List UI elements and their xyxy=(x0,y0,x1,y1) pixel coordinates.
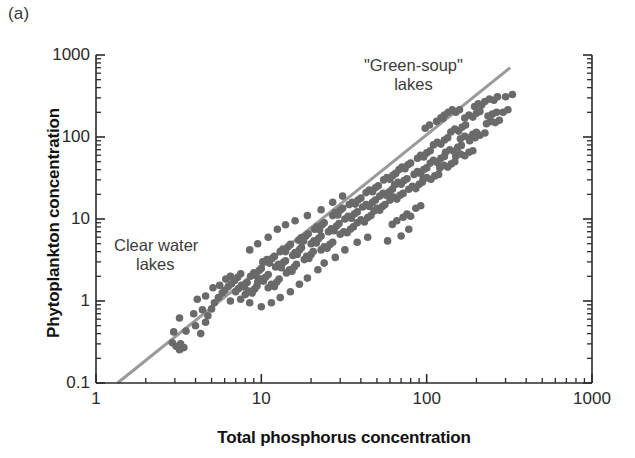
data-point xyxy=(405,225,413,233)
data-point xyxy=(437,114,445,122)
scatter-points xyxy=(169,91,517,354)
data-point xyxy=(469,147,477,155)
y-tick-label: 1 xyxy=(32,291,90,311)
data-point xyxy=(364,233,372,241)
data-point xyxy=(246,299,254,307)
annotation-clear-water-lakes: Clear waterlakes xyxy=(114,236,198,275)
y-tick-label: 1000 xyxy=(32,45,90,65)
data-point xyxy=(317,206,325,214)
data-point xyxy=(304,274,312,282)
data-point xyxy=(264,233,272,241)
data-point xyxy=(204,312,212,320)
data-point xyxy=(202,319,210,327)
data-point xyxy=(504,106,512,114)
x-tick-label: 1 xyxy=(61,389,131,409)
data-point xyxy=(293,261,301,269)
data-point xyxy=(339,192,347,200)
data-point xyxy=(496,117,504,125)
data-point xyxy=(287,241,295,249)
data-point xyxy=(407,159,415,167)
data-point xyxy=(462,121,470,129)
data-point xyxy=(202,292,210,300)
x-axis-title: Total phosphorus concentration xyxy=(96,428,592,448)
data-point xyxy=(458,142,466,150)
data-point xyxy=(268,299,276,307)
data-point xyxy=(466,137,474,145)
data-point xyxy=(258,265,266,273)
figure-panel-a: (a) Phytoplankton concentration Total ph… xyxy=(0,0,635,458)
data-point xyxy=(227,297,235,305)
x-tick-label: 100 xyxy=(392,389,462,409)
data-point xyxy=(291,217,299,225)
data-point xyxy=(258,303,266,311)
data-point xyxy=(309,248,317,256)
data-point xyxy=(246,246,254,254)
data-point xyxy=(353,239,361,247)
data-point xyxy=(298,244,306,252)
annotation-green-soup-line1: "Green-soup" xyxy=(364,56,463,74)
data-point xyxy=(320,259,328,267)
data-point xyxy=(304,230,312,238)
annotation-green-soup-lakes: "Green-soup"lakes xyxy=(364,56,463,95)
data-point xyxy=(417,202,425,210)
data-point xyxy=(389,221,397,229)
data-point xyxy=(192,322,200,330)
data-point xyxy=(481,129,489,137)
panel-label: (a) xyxy=(8,4,29,24)
data-point xyxy=(329,239,337,247)
data-point xyxy=(274,225,282,233)
annotation-clear-water-line2: lakes xyxy=(114,255,175,274)
data-point xyxy=(357,194,365,202)
data-point xyxy=(275,275,283,283)
data-point xyxy=(435,171,443,179)
data-point xyxy=(296,281,304,289)
data-point xyxy=(320,219,328,227)
data-point xyxy=(509,91,517,99)
data-point xyxy=(199,306,207,314)
data-point xyxy=(421,124,429,132)
x-tick-label: 1000 xyxy=(557,389,627,409)
data-point xyxy=(237,296,245,304)
x-tick-label: 10 xyxy=(226,389,296,409)
data-point xyxy=(254,240,262,248)
y-tick-label: 10 xyxy=(32,209,90,229)
data-point xyxy=(182,327,190,335)
data-point xyxy=(190,310,198,318)
data-point xyxy=(397,232,405,240)
data-point xyxy=(180,344,188,352)
data-point xyxy=(407,213,415,221)
data-point xyxy=(176,314,184,322)
data-point xyxy=(282,221,290,229)
data-point xyxy=(375,182,383,190)
data-point xyxy=(456,106,464,114)
annotation-green-soup-line2: lakes xyxy=(394,75,433,93)
data-point xyxy=(209,284,217,292)
x-axis-tick-labels: 1101001000 xyxy=(0,389,635,413)
data-point xyxy=(341,246,349,254)
data-point xyxy=(494,93,502,101)
data-point xyxy=(332,254,340,262)
data-point xyxy=(197,330,205,338)
annotation-clear-water-line1: Clear water xyxy=(114,236,198,254)
data-point xyxy=(314,266,322,274)
data-point xyxy=(264,271,272,279)
data-point xyxy=(304,212,312,220)
data-point xyxy=(403,175,411,183)
data-point xyxy=(484,112,492,120)
data-point xyxy=(317,232,325,240)
data-point xyxy=(329,199,337,207)
data-point xyxy=(384,237,392,245)
data-point xyxy=(276,294,284,302)
data-point xyxy=(339,205,347,213)
data-point xyxy=(282,257,290,265)
data-point xyxy=(237,270,245,278)
data-point xyxy=(194,296,202,304)
data-point xyxy=(287,288,295,296)
data-point xyxy=(170,328,178,336)
data-point xyxy=(502,93,510,101)
data-point xyxy=(493,109,501,117)
y-tick-label: 100 xyxy=(32,127,90,147)
